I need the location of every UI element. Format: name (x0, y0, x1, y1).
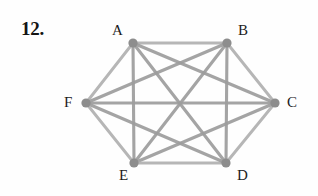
graph-vertex-d (221, 158, 230, 167)
graph-vertex-b (222, 38, 231, 47)
graph-vertex-a (128, 38, 137, 47)
vertex-label-c: C (287, 95, 297, 110)
graph-vertex-e (129, 158, 138, 167)
page-canvas: 12. ABCDEF (0, 0, 318, 196)
graph-edge-layer (86, 43, 275, 163)
vertex-label-f: F (64, 95, 72, 110)
graph-figure: ABCDEF (0, 0, 318, 196)
vertex-label-d: D (237, 168, 248, 183)
graph-vertex-f (81, 98, 90, 107)
vertex-label-a: A (112, 23, 123, 38)
vertex-label-b: B (238, 23, 248, 38)
vertex-label-e: E (119, 168, 128, 183)
graph-vertex-c (270, 98, 279, 107)
graph-canvas (0, 0, 318, 196)
